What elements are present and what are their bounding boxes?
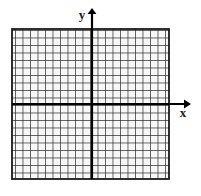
coordinate-grid-canvas: y x — [0, 0, 201, 196]
x-axis-label: x — [180, 105, 187, 120]
y-axis-label: y — [79, 7, 86, 22]
coordinate-grid-figure: y x — [0, 0, 201, 196]
